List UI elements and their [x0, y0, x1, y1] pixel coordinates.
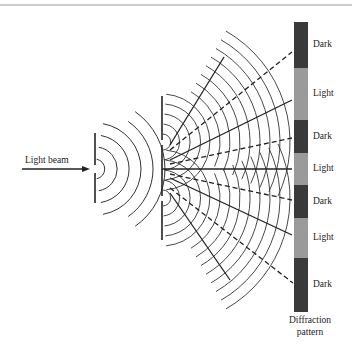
pattern-band-light: [294, 153, 308, 185]
pattern-band-light: [294, 68, 308, 120]
pattern-label-light: Light: [313, 163, 334, 173]
destructive-line: [170, 188, 293, 283]
diffraction-pattern-caption: Diffraction pattern: [282, 314, 338, 338]
destructive-line: [170, 52, 292, 150]
pattern-label-dark: Dark: [313, 279, 332, 289]
pattern-label-dark: Dark: [313, 131, 332, 141]
pattern-label-dark: Dark: [313, 39, 332, 49]
pattern-label-dark: Dark: [313, 196, 332, 206]
caption-line-1: Diffraction: [282, 314, 338, 326]
first-slit-wavefronts: [97, 112, 165, 227]
pattern-band-dark: [294, 22, 308, 68]
constructive-line: [170, 100, 292, 160]
diffraction-diagram: [0, 0, 352, 353]
pattern-band-light: [294, 218, 308, 258]
light-beam-arrow: [22, 166, 90, 172]
pattern-label-light: Light: [313, 232, 334, 242]
double-slit-wavefronts: [163, 31, 290, 309]
pattern-band-dark: [294, 185, 308, 218]
diffraction-pattern-bar: [294, 22, 308, 312]
pattern-band-dark: [294, 258, 308, 312]
pattern-label-light: Light: [313, 88, 334, 98]
caption-line-2: pattern: [282, 326, 338, 338]
light-beam-label: Light beam: [25, 155, 69, 165]
pattern-band-dark: [294, 120, 308, 153]
interference-lines: [162, 52, 293, 283]
